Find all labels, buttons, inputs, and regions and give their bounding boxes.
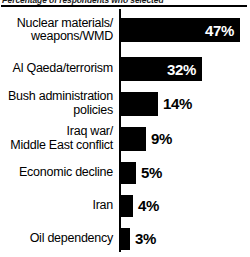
bar-value-label: 5% [141,165,162,180]
bar-row-list: Nuclear materials/ weapons/WMD47%Al Qaed… [0,9,250,255]
bar-value-label: 9% [151,131,172,146]
bar-value-label: 32% [167,61,196,76]
bar [121,162,136,184]
bar-category-label: Oil dependency [0,232,117,246]
bar-category-label: Iraq war/ Middle East conflict [0,125,117,152]
bar-zone: 9% [121,121,250,156]
plot-area: Nuclear materials/ weapons/WMD47%Al Qaed… [0,9,250,257]
bar-row: Oil dependency3% [0,222,250,255]
bar [121,127,146,151]
bar-zone: 32% [121,51,250,86]
bar-zone: 4% [121,189,250,222]
bar-chart-figure: Percentage of respondents who selected N… [0,0,250,257]
bar-zone: 5% [121,156,250,189]
bar-row: Al Qaeda/terrorism32% [0,51,250,86]
header-divider [1,5,247,7]
bar [121,92,158,116]
bar-category-label: Nuclear materials/ weapons/WMD [0,17,117,44]
bar-row: Nuclear materials/ weapons/WMD47% [0,9,250,51]
bar [121,228,130,250]
bar-zone: 47% [121,9,250,51]
bar-row: Iraq war/ Middle East conflict9% [0,121,250,156]
bar-category-label: Economic decline [0,166,117,180]
bar-category-label: Bush administration policies [0,90,117,117]
bar-row: Iran4% [0,189,250,222]
bar-value-label: 4% [138,198,159,213]
bar-row: Economic decline5% [0,156,250,189]
bar-value-label: 47% [205,23,234,38]
bar-row: Bush administration policies14% [0,86,250,121]
bar-category-label: Iran [0,199,117,213]
bar [121,195,133,217]
bar-value-label: 14% [163,96,192,111]
bar: 47% [121,18,240,42]
bar-zone: 3% [121,222,250,255]
bar: 32% [121,57,202,81]
bar-zone: 14% [121,86,250,121]
bar-category-label: Al Qaeda/terrorism [0,62,117,76]
bar-value-label: 3% [135,231,156,246]
